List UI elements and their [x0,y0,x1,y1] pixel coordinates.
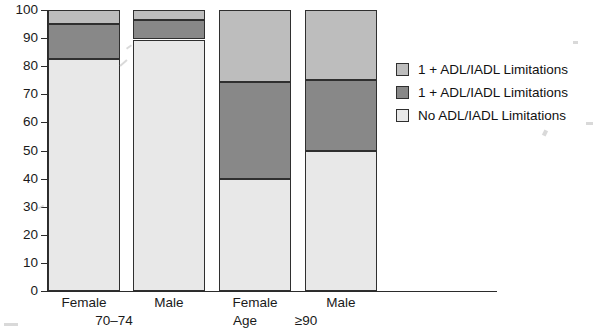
scan-speck [119,59,127,66]
y-axis-tick [41,151,48,152]
legend-swatch-icon [396,63,409,76]
y-axis-tick-label: 50 [0,144,38,158]
legend-item: 1 + ADL/IADL Limitations [396,58,596,81]
y-axis-tick-label: 60 [0,115,38,129]
bar-segment [133,20,205,40]
y-axis-tick [41,122,48,123]
legend-label: No ADL/IADL Limitations [418,109,566,123]
stacked-bar-chart: 0102030405060708090100 FemaleMaleFemaleM… [0,0,599,333]
bar [305,10,377,291]
bar [219,10,291,291]
x-axis-line [47,291,497,292]
scan-speck [4,323,18,326]
y-axis-tick [41,263,48,264]
legend-label: 1 + ADL/IADL Limitations [418,86,568,100]
bar-segment [48,10,120,24]
x-axis-label: Male [281,295,401,310]
y-axis-tick-label: 100 [0,3,38,17]
y-axis-tick-label: 30 [0,200,38,214]
legend-swatch-icon [396,86,409,99]
y-axis-tick [41,291,48,292]
legend-item: 1 + ADL/IADL Limitations [396,81,596,104]
x-group-label-90plus: ≥90 [236,313,376,328]
bar-segment [133,40,205,291]
bar [133,10,205,291]
scan-speck [542,129,548,136]
bar [48,10,120,291]
bar-segment [219,179,291,291]
scan-speck [573,41,578,44]
y-axis-tick-label: 90 [0,31,38,45]
y-axis-tick-label: 10 [0,256,38,270]
y-axis-tick-label: 80 [0,59,38,73]
bar-segment [305,80,377,150]
y-axis-tick-label: 70 [0,87,38,101]
bar-segment [219,10,291,82]
y-axis-tick [41,179,48,180]
y-axis-tick [41,66,48,67]
bar-segment [219,82,291,179]
y-axis-tick [41,207,48,208]
y-axis-tick [41,10,48,11]
legend: 1 + ADL/IADL Limitations 1 + ADL/IADL Li… [396,58,596,127]
legend-label: 1 + ADL/IADL Limitations [418,63,568,77]
bar-segment [305,10,377,80]
y-axis-tick [41,94,48,95]
y-axis-tick [41,235,48,236]
y-axis-tick-label: 20 [0,228,38,242]
bar-segment [133,10,205,20]
scan-speck [126,44,132,49]
y-axis-tick [41,38,48,39]
bar-segment [48,24,120,59]
y-axis-tick-label: 40 [0,172,38,186]
x-group-label-70-74: 70–74 [44,313,184,328]
bar-segment [48,59,120,291]
legend-item: No ADL/IADL Limitations [396,104,596,127]
legend-swatch-icon [396,109,409,122]
bar-segment [305,151,377,292]
